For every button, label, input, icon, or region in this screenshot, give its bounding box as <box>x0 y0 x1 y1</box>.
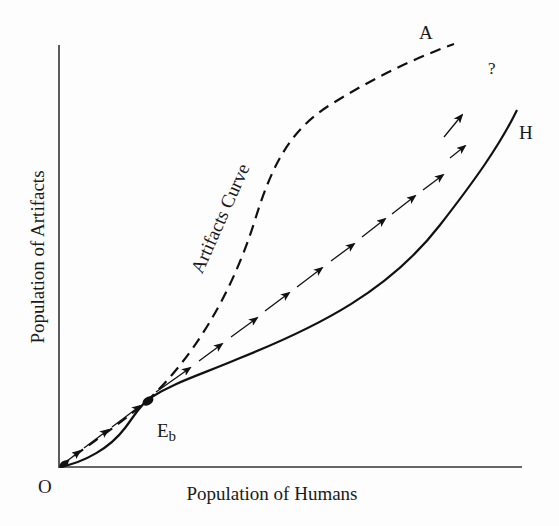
equilibrium-label-sub: b <box>169 428 177 444</box>
origin-label: O <box>38 476 52 497</box>
y-axis-label: Population of Artifacts <box>27 170 48 343</box>
curve-a-label: A <box>419 22 433 43</box>
equilibrium-label-main: E <box>157 420 169 441</box>
trajectory-arrows <box>62 115 465 465</box>
x-axis-label: Population of Humans <box>187 483 358 504</box>
diagram-canvas: Population of Artifacts Population of Hu… <box>0 0 559 526</box>
curve-h-label: H <box>519 122 533 143</box>
artifacts-curve-label: Artifacts Curve <box>187 160 254 276</box>
humans-curve <box>60 110 517 467</box>
equilibrium-label: Eb <box>157 420 176 444</box>
artifacts-curve <box>60 44 454 467</box>
question-label: ? <box>488 59 496 78</box>
